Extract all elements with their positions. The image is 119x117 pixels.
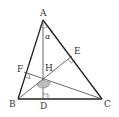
altitude-cf [24, 72, 102, 99]
label-e: E [74, 46, 81, 56]
label-b: B [9, 99, 16, 109]
angle-alpha-arc [43, 26, 48, 28]
right-angle-mark-d [43, 94, 48, 99]
orthocenter-diagram: A B C D E F H α ° [0, 0, 119, 117]
angle-alpha-degree: ° [50, 29, 53, 36]
right-angle-mark-e [68, 59, 75, 63]
angle-bhc-shade [37, 80, 51, 88]
label-h: H [45, 63, 53, 73]
label-c: C [104, 99, 111, 109]
label-a: A [39, 8, 47, 18]
label-f: F [17, 64, 23, 74]
label-d: D [40, 101, 47, 111]
